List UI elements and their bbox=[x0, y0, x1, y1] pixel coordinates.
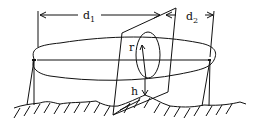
left-antenna bbox=[27, 60, 36, 105]
fresnel-cross-section bbox=[136, 32, 160, 78]
fresnel-diagram: d1 d2 r h bbox=[0, 0, 261, 131]
label-r: r bbox=[129, 41, 135, 54]
terrain-profile bbox=[14, 95, 246, 108]
fresnel-ellipsoid bbox=[33, 37, 216, 80]
cross-section-plane bbox=[113, 8, 176, 115]
label-d1: d1 bbox=[83, 9, 95, 24]
dimension-d1 bbox=[38, 11, 160, 47]
label-d2: d2 bbox=[186, 10, 198, 25]
label-h: h bbox=[131, 85, 138, 98]
